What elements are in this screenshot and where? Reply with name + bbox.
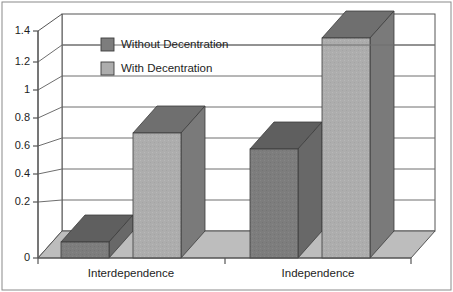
legend-item-without-decentration[interactable]: Without Decentration: [101, 38, 228, 51]
x-category-label: Independence: [282, 267, 355, 279]
y-tick-label: 0: [24, 251, 30, 263]
y-tick-label: 0.4: [15, 167, 30, 179]
bar-interdependence-with-decentration: [133, 106, 205, 258]
x-category-label: Interdependence: [88, 267, 174, 279]
legend-label-without-decentration: Without Decentration: [121, 38, 228, 50]
y-tick-label: 1.4: [15, 24, 30, 36]
y-tick-label: 0.2: [15, 195, 30, 207]
y-tick-label: 1: [24, 83, 30, 95]
bar-chart: 1.4 1.2 1 0.8 0.6 0.4 0.2 0: [0, 0, 453, 292]
y-tick-label: 0.6: [15, 139, 30, 151]
legend-label-with-decentration: With Decentration: [121, 62, 212, 74]
legend-swatch-without-decentration: [101, 38, 114, 51]
bar-independence-without-decentration: [250, 122, 322, 258]
legend-swatch-with-decentration: [101, 62, 114, 75]
chart-canvas: 1.4 1.2 1 0.8 0.6 0.4 0.2 0: [0, 0, 453, 292]
bar-independence-with-decentration: [322, 11, 394, 258]
depth-wall-left: [38, 14, 62, 258]
y-tick-label: 1.2: [15, 55, 30, 67]
y-tick-label: 0.8: [15, 111, 30, 123]
